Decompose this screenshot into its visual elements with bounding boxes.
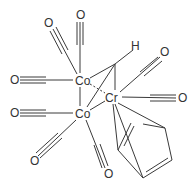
oxygen-atom-2: O xyxy=(76,8,85,22)
oxygen-atom-6: O xyxy=(104,167,113,181)
oxygen-atom-3: O xyxy=(10,73,19,87)
structure-svg: Co Co Cr H O O O O O O O O xyxy=(0,0,196,187)
molecule-diagram: Co Co Cr H O O O O O O O O xyxy=(0,0,196,187)
cobalt-atom-1: Co xyxy=(75,74,91,88)
oxygen-atom-4: O xyxy=(10,106,19,120)
cobalt-atom-2: Co xyxy=(75,107,91,121)
hydrogen-atom: H xyxy=(131,39,140,53)
bonds xyxy=(20,22,176,178)
oxygen-atom-1: O xyxy=(44,16,53,30)
oxygen-atom-8: O xyxy=(178,91,187,105)
oxygen-atom-7: O xyxy=(160,45,169,59)
oxygen-atom-5: O xyxy=(30,154,39,168)
chromium-atom: Cr xyxy=(105,91,118,105)
